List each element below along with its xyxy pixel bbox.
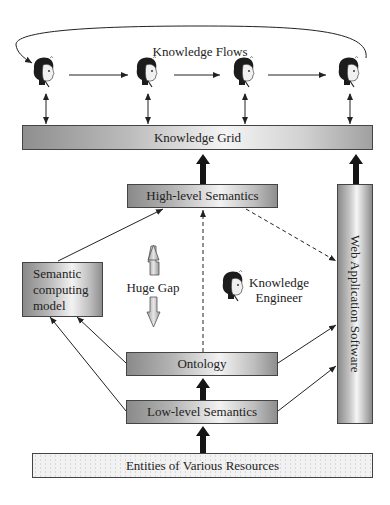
web-application-software-box: Web Application Software: [337, 184, 373, 424]
huge-gap-label: Huge Gap: [120, 280, 186, 295]
knowledge-engineer-icon: [223, 271, 243, 302]
knowledge-engineer-label: Knowledge Engineer: [246, 275, 312, 305]
low-level-semantics-box: Low-level Semantics: [126, 400, 278, 424]
web-application-software-label: Web Application Software: [347, 235, 363, 373]
knowledge-grid-box: Knowledge Grid: [22, 125, 373, 150]
diagram-connectors: [0, 0, 390, 505]
entities-box: Entities of Various Resources: [32, 453, 373, 478]
person-icon: [34, 57, 54, 88]
high-level-semantics-box: High-level Semantics: [127, 184, 278, 208]
person-icon: [339, 57, 359, 88]
person-icon: [137, 57, 157, 88]
ontology-box: Ontology: [126, 352, 278, 376]
knowledge-flows-label: Knowledge Flows: [150, 44, 250, 59]
semantic-computing-model-box: Semantic computing model: [22, 262, 103, 317]
person-icon: [234, 57, 254, 88]
